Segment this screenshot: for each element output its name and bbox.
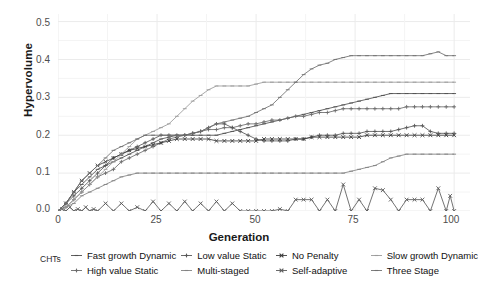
x-tick-label: 50 xyxy=(235,214,275,225)
data-point-marker xyxy=(349,131,353,135)
y-tick-label: 0.4 xyxy=(10,54,50,65)
plot-panel xyxy=(58,14,470,211)
legend-item-label: No Penalty xyxy=(292,250,338,261)
legend-key-dash-icon xyxy=(370,265,383,276)
y-tick-label: 0.0 xyxy=(10,203,50,214)
data-point-marker xyxy=(365,130,369,134)
data-point-marker xyxy=(357,107,361,111)
data-point-marker xyxy=(397,107,401,111)
legend-title: CHTs xyxy=(40,248,70,264)
data-point-marker xyxy=(333,109,337,113)
x-tick-label: 75 xyxy=(333,214,373,225)
data-point-marker xyxy=(373,107,377,111)
series-3 xyxy=(58,154,456,211)
data-point-marker xyxy=(349,107,353,111)
legend-item[interactable]: Multi-staged xyxy=(180,263,271,278)
data-point-marker xyxy=(151,200,155,204)
chart-root: Hypervolume 0.5 0.4 0.3 0.2 0.1 0.0 0 25… xyxy=(0,0,478,285)
data-point-marker xyxy=(127,156,131,160)
x-tick-label: 25 xyxy=(136,214,176,225)
data-point-marker xyxy=(135,205,139,209)
legend-item[interactable]: Low value Static xyxy=(180,248,271,263)
data-point-marker xyxy=(389,198,393,202)
data-point-marker xyxy=(413,124,417,128)
data-point-marker xyxy=(92,207,96,211)
data-point-marker xyxy=(143,141,147,145)
data-point-marker xyxy=(135,152,139,156)
legend-item[interactable]: Self-adaptive xyxy=(275,263,366,278)
data-point-marker xyxy=(444,105,448,109)
data-point-marker xyxy=(381,107,385,111)
data-point-marker xyxy=(143,148,147,152)
legend-item[interactable]: Fast growth Dynamic xyxy=(70,248,176,263)
plot-area xyxy=(58,14,470,211)
data-point-marker xyxy=(436,186,440,190)
legend-key-cross-icon xyxy=(275,265,288,276)
data-point-marker xyxy=(381,130,385,134)
data-point-marker xyxy=(421,105,425,109)
data-point-marker xyxy=(294,114,298,118)
legend-item[interactable]: No Penalty xyxy=(275,248,366,263)
series-4 xyxy=(58,133,456,211)
data-point-marker xyxy=(246,133,250,137)
data-point-marker xyxy=(75,269,79,273)
data-point-marker xyxy=(84,205,88,209)
legend-key-plus-icon xyxy=(180,250,193,261)
series-5 xyxy=(58,183,456,211)
legend-item[interactable]: High value Static xyxy=(70,263,176,278)
legend-item[interactable]: Slow growth Dynamic xyxy=(370,248,478,263)
data-point-marker xyxy=(325,198,329,202)
data-point-marker xyxy=(215,128,219,132)
data-point-marker xyxy=(246,122,250,126)
legend-item[interactable]: Three Stage xyxy=(370,263,478,278)
legend-key-dash-icon xyxy=(70,250,83,261)
data-point-marker xyxy=(389,107,393,111)
x-tick-label: 0 xyxy=(38,214,78,225)
data-point-marker xyxy=(230,202,234,206)
data-point-marker xyxy=(104,202,108,206)
chart-legend: CHTs Fast growth DynamicHigh value Stati… xyxy=(40,248,478,282)
data-point-marker xyxy=(286,116,290,120)
legend-item-label: Slow growth Dynamic xyxy=(387,250,478,261)
series-0 xyxy=(58,94,456,211)
legend-item-label: Fast growth Dynamic xyxy=(87,250,176,261)
x-axis-label: Generation xyxy=(0,231,478,243)
data-point-marker xyxy=(151,137,155,141)
data-point-marker xyxy=(405,126,409,130)
data-point-marker xyxy=(222,126,226,130)
legend-item-label: Low value Static xyxy=(197,250,266,261)
data-point-marker xyxy=(68,205,72,209)
legend-items: Fast growth DynamicHigh value StaticLow … xyxy=(70,248,478,278)
data-point-marker xyxy=(230,126,234,130)
data-point-marker xyxy=(104,160,108,164)
y-tick-label: 0.1 xyxy=(10,166,50,177)
legend-item-label: Self-adaptive xyxy=(292,265,347,276)
data-point-marker xyxy=(104,171,108,175)
data-point-marker xyxy=(167,202,171,206)
data-point-marker xyxy=(119,202,123,206)
data-point-marker xyxy=(215,200,219,204)
data-point-marker xyxy=(452,105,456,109)
data-point-marker xyxy=(357,198,361,202)
data-point-marker xyxy=(365,107,369,111)
y-tick-label: 0.3 xyxy=(10,91,50,102)
series-7 xyxy=(58,52,456,211)
data-point-marker xyxy=(238,124,242,128)
data-point-marker xyxy=(199,202,203,206)
data-point-marker xyxy=(185,254,189,258)
legend-key-plus-icon xyxy=(70,265,83,276)
data-point-marker xyxy=(278,118,282,122)
data-point-marker xyxy=(341,131,345,135)
data-point-marker xyxy=(428,105,432,109)
data-point-marker xyxy=(357,131,361,135)
legend-item-label: Multi-staged xyxy=(197,265,249,276)
data-point-marker xyxy=(341,107,345,111)
y-tick-label: 0.2 xyxy=(10,129,50,140)
data-point-marker xyxy=(183,200,187,204)
legend-key-dash-icon xyxy=(180,265,193,276)
data-point-marker xyxy=(397,128,401,132)
data-point-marker xyxy=(325,111,329,115)
x-tick-label: 100 xyxy=(431,214,471,225)
legend-key-dash-icon xyxy=(370,250,383,261)
legend-item-label: High value Static xyxy=(87,265,158,276)
